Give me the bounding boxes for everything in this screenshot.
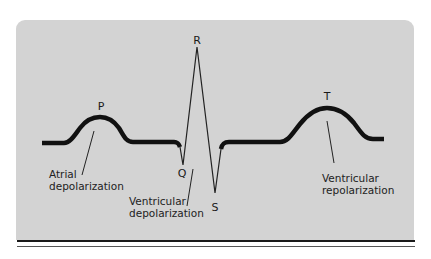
ventricular-depolarization-annotation: Ventricular depolarization <box>129 195 204 219</box>
s-wave-label: S <box>212 202 219 213</box>
t-wave-trace <box>221 108 384 149</box>
ecg-waveform <box>0 0 431 259</box>
ventricular-repolarization-pointer-line <box>327 121 334 163</box>
bottom-rule-thick <box>17 240 415 242</box>
p-wave-trace <box>42 117 180 147</box>
atrial-annotation-line1: Atrial <box>49 168 124 180</box>
ventricular-rep-annotation-line2: repolarization <box>322 184 394 196</box>
ventricular-rep-annotation-line1: Ventricular <box>322 172 394 184</box>
atrial-depolarization-annotation: Atrial depolarization <box>49 168 124 192</box>
ventricular-repolarization-annotation: Ventricular repolarization <box>322 172 394 196</box>
q-wave-label: Q <box>178 168 187 179</box>
p-wave-label: P <box>98 101 105 112</box>
ventricular-dep-annotation-line1: Ventricular <box>129 195 204 207</box>
atrial-annotation-line2: depolarization <box>49 180 124 192</box>
bottom-rule-thin <box>17 246 415 247</box>
ventricular-dep-annotation-line2: depolarization <box>129 207 204 219</box>
r-wave-label: R <box>193 35 201 46</box>
t-wave-label: T <box>324 91 331 102</box>
